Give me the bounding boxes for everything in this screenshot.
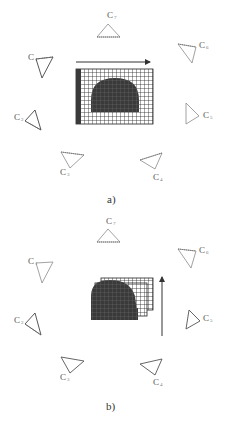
- svg-text:6: 6: [206, 45, 209, 50]
- camera-icon: [97, 24, 120, 37]
- camera-c3-b: C 3: [60, 357, 84, 382]
- svg-text:C: C: [153, 377, 159, 387]
- panel-caption-b: b): [106, 400, 116, 413]
- panel-b: C 7 C 6 C 1 C 2: [14, 216, 213, 413]
- camera-icon: [178, 249, 196, 268]
- camera-c6-a: C 6: [178, 40, 209, 63]
- svg-text:2: 2: [21, 320, 24, 325]
- camera-icon: [25, 110, 41, 130]
- grid-image-a: [76, 69, 153, 125]
- svg-text:3: 3: [67, 172, 70, 177]
- svg-text:2: 2: [21, 117, 24, 122]
- figure-canvas: C 7 C 6 C 1 C 2: [0, 0, 227, 427]
- camera-icon: [140, 153, 162, 169]
- svg-text:3: 3: [67, 377, 70, 382]
- camera-label: C: [107, 10, 113, 20]
- svg-text:C: C: [153, 172, 159, 182]
- svg-text:5: 5: [210, 318, 213, 323]
- svg-text:C: C: [14, 112, 20, 122]
- svg-text:C: C: [203, 110, 209, 120]
- camera-icon: [61, 152, 84, 168]
- camera-c6-b: C 6: [178, 245, 209, 268]
- camera-c2-a: C 2: [14, 110, 41, 130]
- svg-text:C: C: [14, 315, 20, 325]
- svg-text:6: 6: [206, 250, 209, 255]
- camera-c1-b: C 1: [28, 256, 53, 283]
- camera-c5-a: C 5: [186, 103, 213, 124]
- camera-c4-b: C 4: [140, 359, 163, 387]
- camera-c3-a: C 3: [60, 152, 84, 177]
- svg-text:C: C: [28, 256, 34, 266]
- camera-icon: [61, 357, 84, 373]
- camera-c4-a: C 4: [140, 153, 163, 182]
- camera-c5-b: C 5: [186, 310, 213, 329]
- camera-icon: [25, 313, 41, 335]
- camera-icon: [186, 103, 199, 124]
- svg-text:C: C: [199, 245, 205, 255]
- camera-c7-b: C 7: [97, 216, 120, 242]
- svg-text:7: 7: [114, 15, 117, 20]
- camera-icon: [178, 44, 196, 63]
- svg-text:C: C: [203, 313, 209, 323]
- camera-icon: [36, 262, 53, 283]
- svg-text:5: 5: [210, 115, 213, 120]
- camera-c7-a: C 7: [97, 10, 120, 37]
- svg-text:C: C: [199, 40, 205, 50]
- camera-c1-a: C 1: [28, 52, 53, 78]
- camera-icon: [186, 310, 200, 329]
- svg-text:C: C: [60, 167, 66, 177]
- camera-icon: [97, 229, 120, 242]
- camera-c2-b: C 2: [14, 313, 41, 335]
- svg-text:7: 7: [113, 221, 116, 226]
- grid-image-b: [91, 278, 153, 320]
- svg-text:C: C: [106, 216, 112, 226]
- svg-text:4: 4: [160, 382, 163, 387]
- camera-icon: [140, 359, 162, 375]
- camera-icon: [36, 57, 53, 78]
- svg-text:C: C: [28, 52, 34, 62]
- panel-a: C 7 C 6 C 1 C 2: [14, 10, 213, 206]
- panel-caption-a: a): [107, 193, 116, 206]
- svg-text:C: C: [60, 372, 66, 382]
- svg-text:4: 4: [160, 177, 163, 182]
